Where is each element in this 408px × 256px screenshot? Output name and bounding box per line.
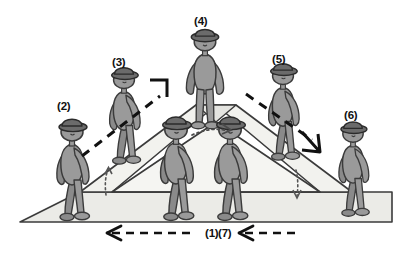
illustration-canvas: (1) (2) (3) (4) (5) (6) (7) bbox=[0, 0, 408, 256]
label-4: (4) bbox=[194, 16, 207, 28]
scene-svg bbox=[0, 0, 408, 256]
label-3: (3) bbox=[112, 57, 125, 69]
label-5: (5) bbox=[272, 54, 285, 66]
arrow-7 bbox=[239, 226, 300, 240]
label-1: (1) bbox=[205, 228, 218, 240]
label-2: (2) bbox=[57, 101, 70, 113]
label-6: (6) bbox=[344, 110, 357, 122]
arrow-1 bbox=[107, 226, 196, 240]
label-7: (7) bbox=[218, 228, 231, 240]
